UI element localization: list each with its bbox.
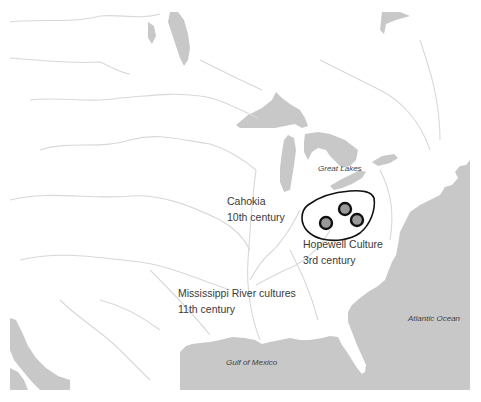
mississippi-label: Mississippi River cultures 11th century: [178, 285, 296, 317]
cahokia-name: Cahokia: [227, 193, 285, 209]
hopewell-label: Hopewell Culture 3rd century: [303, 236, 383, 268]
hopewell-site[interactable]: [339, 203, 351, 215]
cahokia-label: Cahokia 10th century: [227, 193, 285, 225]
hopewell-period: 3rd century: [303, 252, 383, 268]
hopewell-site[interactable]: [320, 217, 332, 229]
hopewell-site[interactable]: [351, 214, 363, 226]
atlantic-ocean-label: Atlantic Ocean: [408, 314, 460, 323]
cahokia-period: 10th century: [227, 209, 285, 225]
hopewell-name: Hopewell Culture: [303, 236, 383, 252]
mississippi-name: Mississippi River cultures: [178, 285, 296, 301]
great-lakes-label: Great Lakes: [318, 164, 362, 173]
gulf-of-mexico-label: Gulf of Mexico: [226, 358, 277, 367]
mississippi-period: 11th century: [178, 301, 296, 317]
